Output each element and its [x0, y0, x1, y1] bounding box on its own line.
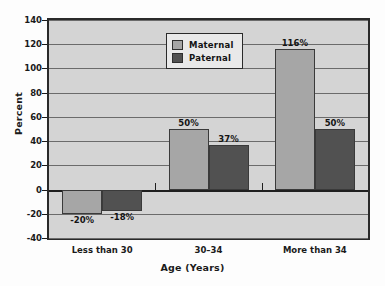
y-axis-tick-label: 120 [16, 39, 42, 49]
bar-maternal-0 [62, 190, 102, 214]
bar-chart-figure: Percent 140120100806040200-20-40 -20%-18… [0, 0, 385, 286]
x-axis-title: Age (Years) [0, 262, 385, 273]
gridline [49, 238, 368, 239]
bar-paternal-0 [102, 190, 142, 212]
legend-item-paternal: Paternal [172, 51, 234, 64]
y-axis-tick-mark [42, 68, 47, 69]
bar-value-label: -18% [94, 212, 150, 222]
legend-swatch-maternal [172, 40, 183, 50]
x-axis-category-label: More than 34 [283, 245, 347, 255]
bar-paternal-2 [315, 129, 355, 190]
y-axis-tick-label: 80 [16, 88, 42, 98]
legend-item-maternal: Maternal [172, 38, 234, 51]
y-axis-tick-mark [42, 20, 47, 21]
y-axis-tick-label: 40 [16, 136, 42, 146]
y-axis-tick-label: -40 [16, 233, 42, 243]
bar-value-label: 50% [161, 118, 217, 128]
y-axis-tick-label: 60 [16, 112, 42, 122]
y-axis-tick-labels: 140120100806040200-20-40 [12, 0, 42, 286]
x-axis-category-label: Less than 30 [72, 245, 133, 255]
y-axis-tick-label: 140 [16, 15, 42, 25]
y-axis-tick-mark [42, 165, 47, 166]
y-axis-tick-label: 0 [16, 185, 42, 195]
x-axis-minor-tick [262, 183, 263, 190]
y-axis-tick-label: -20 [16, 209, 42, 219]
x-axis-category-label: 30–34 [195, 245, 223, 255]
gridline [49, 93, 368, 94]
y-axis-tick-mark [42, 214, 47, 215]
x-axis-minor-tick [155, 183, 156, 190]
y-axis-tick-label: 100 [16, 63, 42, 73]
gridline [49, 20, 368, 21]
y-axis-tick-label: 20 [16, 160, 42, 170]
bar-paternal-1 [209, 145, 249, 190]
y-axis-tick-mark [42, 238, 47, 239]
bar-value-label: 116% [267, 38, 323, 48]
y-axis-tick-mark [42, 93, 47, 94]
y-axis-tick-mark [42, 44, 47, 45]
y-axis-tick-mark [42, 141, 47, 142]
y-axis-tick-mark [42, 190, 47, 191]
bar-value-label: 50% [307, 118, 363, 128]
chart-legend: MaternalPaternal [166, 33, 243, 69]
y-axis-tick-mark [42, 117, 47, 118]
legend-swatch-paternal [172, 53, 183, 63]
bar-value-label: 37% [201, 134, 257, 144]
legend-label: Paternal [189, 53, 231, 63]
legend-label: Maternal [189, 40, 234, 50]
